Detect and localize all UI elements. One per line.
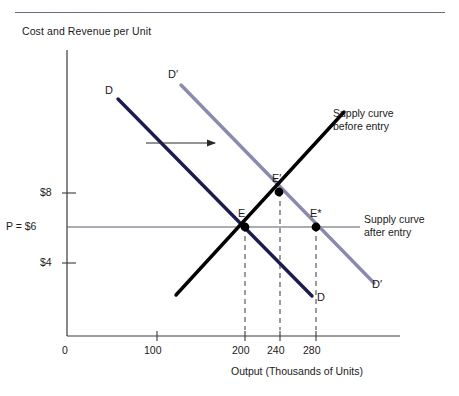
demand-curve-d: [118, 99, 312, 296]
x-tick-label-200: 200: [232, 344, 250, 356]
supply-curve: [176, 112, 344, 295]
point-label-e: E: [238, 207, 245, 219]
curve-label-d-bottom: D: [317, 291, 325, 303]
curve-label-d-top: D: [105, 84, 113, 96]
point-e-prime-marker: [275, 188, 284, 197]
y-tick-label-price: P = $6: [6, 220, 36, 232]
point-e-star-marker: [312, 223, 321, 232]
x-tick-label-240: 240: [267, 344, 285, 356]
y-tick-label-8: $8: [40, 186, 52, 198]
annotation-supply-before-entry-line2: before entry: [333, 120, 394, 133]
annotation-supply-after-entry-line2: after entry: [364, 226, 425, 239]
x-tick-label-280: 280: [303, 344, 321, 356]
x-tick-label-100: 100: [144, 344, 162, 356]
annotation-supply-after-entry-line1: Supply curve: [364, 213, 425, 226]
figure-container: Cost and Revenue per Unit Output (Thousa…: [0, 0, 459, 396]
point-label-e-star: E*: [310, 207, 322, 219]
chart-plot-area: [0, 0, 459, 396]
y-tick-label-4: $4: [40, 256, 52, 268]
annotation-supply-before-entry-line1: Supply curve: [333, 107, 394, 120]
curve-label-d-prime-top: D′: [168, 68, 178, 80]
x-tick-label-0: 0: [62, 344, 68, 356]
point-e-marker: [241, 223, 250, 232]
annotation-supply-before-entry: Supply curve before entry: [333, 107, 394, 132]
annotation-supply-after-entry: Supply curve after entry: [364, 213, 425, 238]
curve-label-d-prime-bottom: D′: [372, 278, 382, 290]
point-label-e-prime: E′: [272, 172, 281, 184]
